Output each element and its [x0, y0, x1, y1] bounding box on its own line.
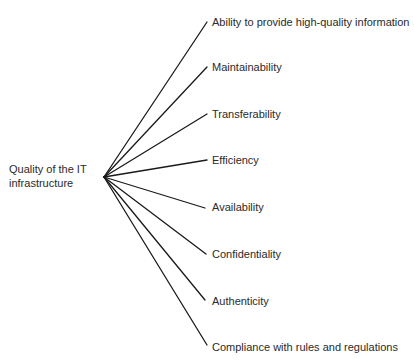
branch-label-authenticity: Authenticity: [212, 295, 269, 308]
branch-label-information-quality: Ability to provide high-quality informat…: [212, 16, 410, 29]
branch-label-compliance: Compliance with rules and regulations: [212, 341, 398, 354]
branch-label-transferability: Transferability: [212, 108, 281, 121]
connector-line: [104, 177, 205, 300]
connector-line: [104, 114, 207, 177]
connector-line: [104, 67, 207, 177]
connector-line: [104, 177, 205, 208]
connector-line: [104, 177, 207, 345]
branch-label-availability: Availability: [212, 201, 264, 214]
branch-label-maintainability: Maintainability: [212, 61, 282, 74]
connector-line: [104, 160, 207, 177]
root-label-line2: infrastructure: [9, 176, 109, 190]
root-label-line1: Quality of the IT: [9, 162, 109, 176]
branch-label-efficiency: Efficiency: [212, 154, 259, 167]
connector-line: [104, 177, 206, 254]
connector-line: [104, 22, 207, 177]
root-node-label: Quality of the IT infrastructure: [9, 162, 109, 190]
branch-label-confidentiality: Confidentiality: [212, 248, 281, 261]
